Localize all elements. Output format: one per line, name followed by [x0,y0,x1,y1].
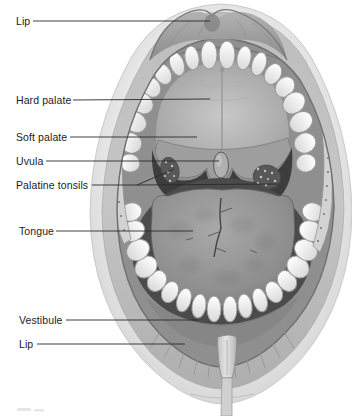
label-lip-top: Lip [16,14,30,28]
cropped-caption-fragment [17,408,44,412]
label-uvula: Uvula [16,154,43,168]
figure-oral-cavity-diagram: Lip Hard palate Soft palate Uvula Palati… [0,0,352,416]
label-soft-palate: Soft palate [16,130,67,144]
label-palatine-tonsils: Palatine tonsils [16,178,88,192]
uvula-illustration [214,152,229,178]
label-tongue: Tongue [19,224,54,238]
label-vestibule: Vestibule [19,313,63,327]
label-lip-bottom: Lip [19,337,33,351]
mouth-illustration [0,0,352,416]
label-hard-palate: Hard palate [16,93,71,107]
